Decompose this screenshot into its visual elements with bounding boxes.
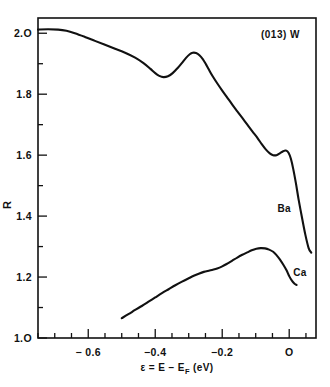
figure-background	[0, 0, 330, 387]
y-tick-label: 1.8	[16, 88, 32, 100]
y-tick-label: 1.4	[16, 210, 32, 222]
y-axis-title: R	[1, 201, 13, 209]
chart-svg: − 0.6−0.4−0.2O 1.O1.21.41.61.82.O BaCa (…	[0, 0, 330, 387]
y-tick-label: 1.2	[16, 271, 32, 283]
curve-label-ba: Ba	[277, 203, 291, 214]
x-tick-label: − 0.6	[75, 346, 101, 358]
x-tick-label: −0.4	[144, 346, 166, 358]
figure-container: − 0.6−0.4−0.2O 1.O1.21.41.61.82.O BaCa (…	[0, 0, 330, 387]
x-tick-label: O	[285, 346, 294, 358]
sample-annotation: (013) W	[261, 29, 300, 40]
y-tick-label: 2.O	[14, 27, 32, 39]
y-tick-label: 1.O	[14, 332, 32, 344]
curve-label-ca: Ca	[293, 267, 307, 278]
y-tick-label: 1.6	[16, 149, 32, 161]
x-tick-label: −0.2	[211, 346, 233, 358]
